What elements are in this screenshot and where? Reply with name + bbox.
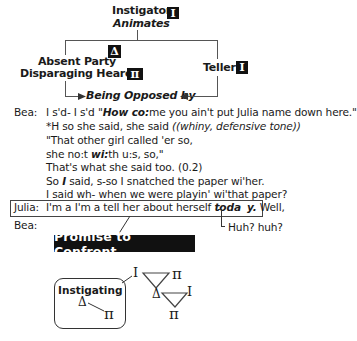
promise-to-confront-box: Promise to Confront (54, 235, 195, 252)
promise-label: Promise to Confront (54, 229, 195, 259)
instigator-symbol: I (187, 284, 192, 299)
delta-symbol: Δ (152, 287, 161, 301)
pi-symbol: π (172, 265, 182, 283)
pi-symbol: π (169, 305, 179, 323)
instigating-label: Instigating (58, 284, 122, 296)
delta-symbol: Δ (78, 295, 87, 309)
instigator-symbol: I (133, 265, 138, 280)
pi-symbol: π (104, 305, 114, 323)
